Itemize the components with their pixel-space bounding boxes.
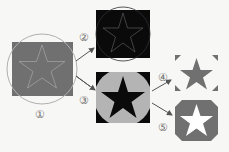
diagram-canvas: ① ② ③ ④ ⑤ [0, 0, 229, 152]
step-4-figure [175, 55, 218, 91]
step-4-label: ④ [158, 71, 168, 84]
step-3-label: ③ [79, 94, 89, 107]
step-2-label: ② [79, 31, 89, 44]
step-3-figure [94, 69, 152, 127]
step-1-figure [7, 34, 77, 104]
corner-mark [212, 85, 218, 91]
gray-square [12, 42, 73, 96]
step-5-label: ⑤ [158, 121, 168, 134]
step-5-figure [175, 100, 218, 141]
corner-mark [175, 55, 181, 61]
step-2-figure [96, 7, 150, 61]
corner-mark [175, 85, 181, 91]
corner-mark [212, 55, 218, 61]
black-square [96, 10, 150, 58]
step-1-label: ① [35, 108, 45, 121]
arrow-to-step-2 [76, 48, 94, 61]
star-filled-icon [180, 58, 213, 90]
